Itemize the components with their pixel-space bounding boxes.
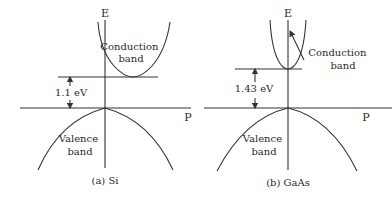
valence-band-label-si: Valence band xyxy=(58,133,102,157)
band-diagram: E P Conduction band 1.1 eV Valence band … xyxy=(0,0,392,197)
p-axis-label-gaas: P xyxy=(362,111,370,124)
valence-band-curve-gaas xyxy=(217,108,357,171)
conduction-pointer-arrow-gaas xyxy=(291,33,304,60)
gap-label-si: 1.1 eV xyxy=(55,87,88,98)
panel-gaas: E P Conduction band 1.43 eV Valence band… xyxy=(204,7,392,188)
valence-band-label-gaas: Valence band xyxy=(242,133,286,157)
conduction-band-label-gaas: Conduction band xyxy=(308,47,369,71)
gap-label-gaas: 1.43 eV xyxy=(235,83,274,94)
panel-si: E P Conduction band 1.1 eV Valence band … xyxy=(20,7,192,186)
caption-gaas: (b) GaAs xyxy=(266,177,310,188)
caption-si: (a) Si xyxy=(92,175,119,186)
e-axis-label-si: E xyxy=(101,7,109,20)
p-axis-label-si: P xyxy=(184,111,192,124)
e-axis-label-gaas: E xyxy=(284,7,292,20)
